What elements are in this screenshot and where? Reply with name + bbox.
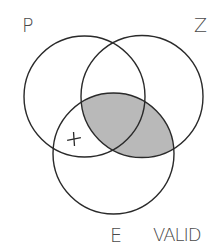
verdict-label: VALID <box>153 226 201 244</box>
set-label-e: E <box>110 226 122 245</box>
venn-svg <box>0 0 218 245</box>
set-label-z: Z <box>194 16 207 35</box>
venn-diagram: P Z E VALID <box>0 0 218 245</box>
existence-mark-icon <box>66 131 82 147</box>
set-label-p: P <box>22 16 33 35</box>
